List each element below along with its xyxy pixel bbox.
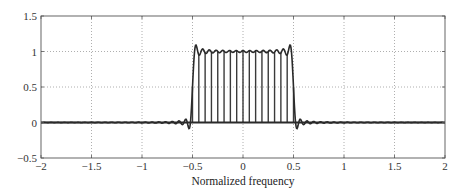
x-tick-label: −1.5 [82, 160, 102, 172]
x-tick-label: 0.5 [287, 160, 301, 172]
y-tick-label: 0.5 [23, 81, 37, 93]
x-tick-label: −0.5 [183, 160, 203, 172]
sample-stems [193, 51, 294, 123]
x-tick-label: 0 [240, 160, 246, 172]
y-tick-label: 1.5 [23, 10, 37, 22]
x-axis-ticks: −2−1.5−1−0.500.511.52 [35, 16, 448, 172]
x-axis-title: Normalized frequency [191, 175, 294, 188]
x-tick-label: 1 [341, 160, 347, 172]
x-tick-label: 2 [442, 160, 448, 172]
y-tick-label: 1 [32, 46, 38, 58]
y-tick-label: −0.5 [17, 152, 37, 164]
x-tick-label: −1 [136, 160, 148, 172]
x-tick-label: 1.5 [388, 160, 402, 172]
frequency-response-chart: −2−1.5−1−0.500.511.52 −0.500.511.5 Norma… [0, 0, 466, 196]
y-tick-label: 0 [32, 117, 38, 129]
